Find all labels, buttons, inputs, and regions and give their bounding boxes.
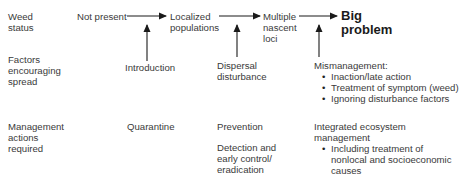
list-item: Treatment of symptom (weed): [322, 82, 459, 93]
list-item-line: Including treatment of: [331, 143, 452, 154]
stage-line: nascent: [263, 22, 297, 33]
list-item: Inaction/late action: [322, 71, 459, 82]
label-line: Management: [8, 121, 64, 132]
stage-line: Big: [341, 9, 392, 23]
action-line: Detection and: [217, 142, 276, 153]
list-item-line: nonlocal and socioeconomic: [331, 154, 452, 165]
factor-line: Dispersal: [217, 60, 267, 71]
action-integrated-ecosystem-management: Integrated ecosystem management Includin…: [314, 121, 452, 176]
list-item-line: causes: [331, 165, 452, 176]
stage-big-problem: Big problem: [341, 9, 392, 37]
integrated-management-list: Including treatment of nonlocal and soci…: [322, 143, 452, 176]
factor-dispersal-disturbance: Dispersal disturbance: [217, 60, 267, 82]
stage-multiple-nascent-loci: Multiple nascent loci: [263, 11, 297, 44]
factor-line: Introduction: [125, 62, 175, 73]
list-item: Ignoring disturbance factors: [322, 93, 459, 104]
row-label-management: Management actions required: [8, 121, 64, 154]
action-quarantine: Quarantine: [127, 121, 174, 132]
label-line: Weed: [8, 11, 34, 22]
factor-mismanagement: Mismanagement: Inaction/late action Trea…: [314, 60, 459, 104]
stage-not-present: Not present: [77, 11, 127, 22]
stage-localized-populations: Localized populations: [170, 11, 219, 33]
action-line: Prevention: [217, 121, 263, 132]
stage-line: Multiple: [263, 11, 297, 22]
action-line: Quarantine: [127, 121, 174, 132]
label-line: spread: [8, 76, 61, 87]
list-item: Including treatment of nonlocal and soci…: [322, 143, 452, 176]
stage-line: loci: [263, 33, 297, 44]
stage-line: populations: [170, 22, 219, 33]
label-line: encouraging: [8, 65, 61, 76]
action-detection-early-control: Detection and early control/ eradication: [217, 142, 276, 175]
label-line: Factors: [8, 54, 61, 65]
row-label-factors: Factors encouraging spread: [8, 54, 61, 87]
action-line: management: [314, 132, 452, 143]
factor-line: disturbance: [217, 71, 267, 82]
action-line: Integrated ecosystem: [314, 121, 452, 132]
action-line: early control/: [217, 153, 276, 164]
stage-line: Not present: [77, 11, 127, 22]
mismanagement-list: Inaction/late action Treatment of sympto…: [322, 71, 459, 104]
label-line: required: [8, 143, 64, 154]
action-prevention: Prevention: [217, 121, 263, 132]
mismanagement-heading: Mismanagement:: [314, 60, 459, 71]
stage-line: Localized: [170, 11, 219, 22]
label-line: actions: [8, 132, 64, 143]
factor-introduction: Introduction: [125, 62, 175, 73]
row-label-weed-status: Weed status: [8, 11, 34, 33]
stage-line: problem: [341, 23, 392, 37]
label-line: status: [8, 22, 34, 33]
action-line: eradication: [217, 164, 276, 175]
